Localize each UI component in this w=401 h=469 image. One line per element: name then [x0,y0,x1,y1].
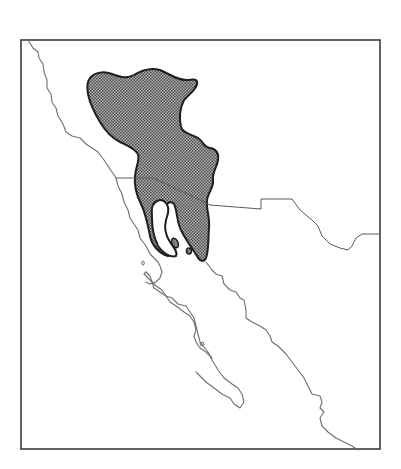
small-island-pacific [142,261,145,265]
mainland-gulf-coastline [206,262,358,450]
range-map [0,0,401,469]
island-small [187,248,192,254]
